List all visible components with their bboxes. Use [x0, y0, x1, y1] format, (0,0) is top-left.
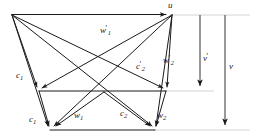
edge-apexright-to-bottomleft	[54, 15, 172, 126]
label-w2-prime: w′2	[163, 56, 174, 65]
label-u: u	[168, 1, 173, 10]
label-v: v	[229, 62, 233, 71]
label-c1-bottom: c1	[29, 115, 36, 124]
scale-arrows	[200, 15, 225, 125]
edge-apexleft-to-bottomright	[12, 15, 152, 126]
label-c2: c2	[120, 109, 127, 118]
label-c1-mid: c1	[16, 71, 23, 80]
label-w2: w2	[157, 111, 166, 120]
label-c2-prime: c′2	[136, 62, 145, 71]
edge-apexright-to-midright	[167, 15, 172, 87]
label-v-prime: v′	[203, 54, 209, 63]
edge-apexleft-to-midright	[12, 15, 163, 88]
figure-container: u w′1 c′2 w′2 c1 c1 w1 c2 w2 v′ v	[0, 0, 253, 140]
diagram-edges	[12, 15, 172, 131]
vector-diagram-canvas	[0, 0, 253, 140]
label-w1: w1	[74, 111, 83, 120]
label-w1-prime: w′1	[100, 26, 111, 35]
edge-midleft-to-bottomleft	[39, 91, 49, 126]
